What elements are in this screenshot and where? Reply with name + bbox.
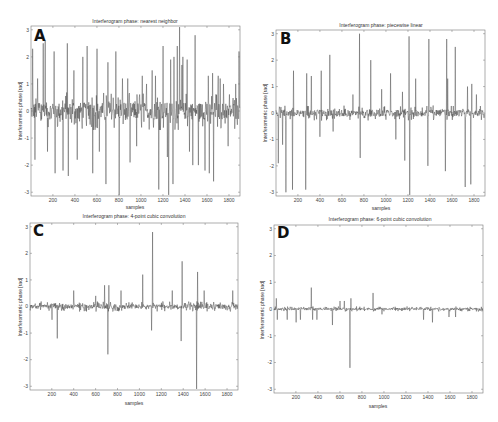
svg-text:1800: 1800 bbox=[466, 394, 477, 400]
svg-text:3: 3 bbox=[269, 226, 272, 232]
plot-area: 20040060080010001200140016001800-3-2-101… bbox=[0, 0, 498, 422]
svg-text:1000: 1000 bbox=[378, 394, 389, 400]
svg-text:2: 2 bbox=[269, 252, 272, 258]
svg-text:0: 0 bbox=[269, 306, 272, 312]
svg-text:-3: -3 bbox=[268, 386, 273, 392]
svg-text:-2: -2 bbox=[268, 359, 273, 365]
panel-d: Interferogram phase: 6-point cubic convo… bbox=[0, 0, 498, 422]
svg-text:-1: -1 bbox=[268, 333, 273, 339]
svg-text:200: 200 bbox=[292, 394, 301, 400]
svg-text:1600: 1600 bbox=[444, 394, 455, 400]
svg-text:1: 1 bbox=[269, 279, 272, 285]
panel-letter: D bbox=[277, 224, 289, 242]
svg-text:400: 400 bbox=[314, 394, 323, 400]
svg-text:1200: 1200 bbox=[400, 394, 411, 400]
svg-text:600: 600 bbox=[336, 394, 345, 400]
svg-text:800: 800 bbox=[358, 394, 367, 400]
svg-text:1400: 1400 bbox=[422, 394, 433, 400]
